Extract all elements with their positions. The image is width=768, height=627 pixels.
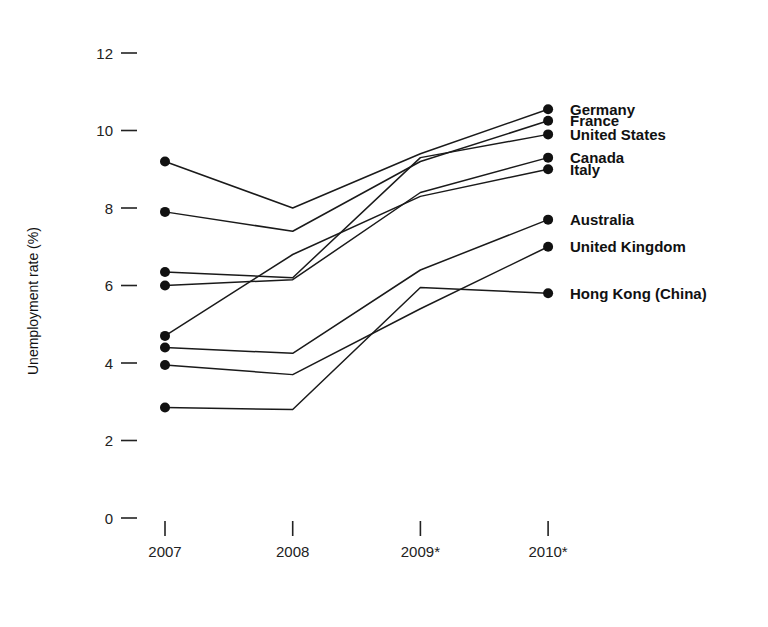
data-point-marker — [543, 215, 553, 225]
data-point-marker — [160, 157, 170, 167]
data-point-marker — [160, 343, 170, 353]
y-axis-tick-label: 0 — [105, 510, 113, 527]
data-point-marker — [543, 116, 553, 126]
data-point-marker — [160, 403, 170, 413]
chart-background — [0, 0, 768, 627]
data-point-marker — [543, 164, 553, 174]
unemployment-rate-line-chart: 121086420 200720082009*2010* GermanyFran… — [0, 0, 768, 627]
series-label-australia: Australia — [570, 211, 635, 228]
x-axis-tick-label: 2007 — [148, 543, 181, 560]
y-axis-tick-label: 6 — [105, 277, 113, 294]
data-point-marker — [543, 153, 553, 163]
y-axis-title: Unemployment rate (%) — [25, 227, 41, 375]
x-axis-tick-label: 2009* — [401, 543, 440, 560]
y-axis-tick-label: 12 — [96, 45, 113, 62]
y-axis-tick-label: 2 — [105, 432, 113, 449]
series-label-hong-kong-china: Hong Kong (China) — [570, 285, 707, 302]
data-point-marker — [160, 331, 170, 341]
series-label-united-states: United States — [570, 126, 666, 143]
data-point-marker — [160, 281, 170, 291]
data-point-marker — [160, 267, 170, 277]
x-axis-tick-label: 2010* — [528, 543, 567, 560]
x-axis-tick-label: 2008 — [276, 543, 309, 560]
data-point-marker — [543, 242, 553, 252]
data-point-marker — [543, 129, 553, 139]
y-axis-tick-label: 10 — [96, 122, 113, 139]
data-point-marker — [160, 360, 170, 370]
series-label-italy: Italy — [570, 161, 601, 178]
data-point-marker — [543, 104, 553, 114]
series-label-united-kingdom: United Kingdom — [570, 238, 686, 255]
y-axis-tick-label: 4 — [105, 355, 113, 372]
y-axis-tick-label: 8 — [105, 200, 113, 217]
data-point-marker — [543, 288, 553, 298]
chart-page: 121086420 200720082009*2010* GermanyFran… — [0, 0, 768, 627]
data-point-marker — [160, 207, 170, 217]
